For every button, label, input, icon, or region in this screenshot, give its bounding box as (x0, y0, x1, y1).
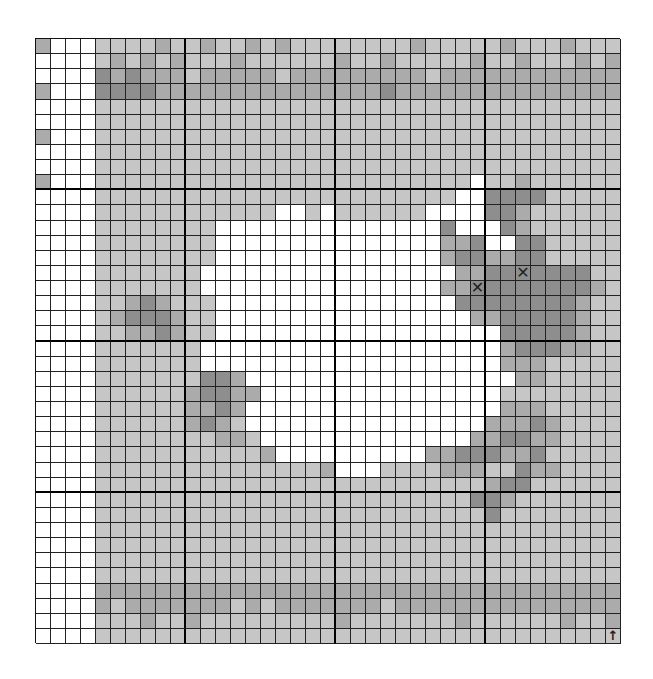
grid-cell-light[interactable] (141, 387, 156, 402)
grid-cell-empty[interactable] (36, 599, 51, 614)
grid-cell-empty[interactable] (81, 478, 96, 493)
grid-cell-empty[interactable] (81, 251, 96, 266)
grid-cell-light[interactable] (306, 54, 321, 69)
grid-cell-medium[interactable] (501, 39, 516, 54)
grid-cell-medium[interactable] (366, 599, 381, 614)
grid-cell-empty[interactable] (426, 311, 441, 326)
grid-cell-dark[interactable] (486, 296, 501, 311)
grid-cell-light[interactable] (216, 493, 231, 508)
grid-cell-light[interactable] (156, 357, 171, 372)
grid-cell-empty[interactable] (426, 342, 441, 357)
grid-cell-light[interactable] (591, 478, 606, 493)
grid-cell-light[interactable] (486, 538, 501, 553)
grid-cell-medium[interactable] (471, 432, 486, 447)
grid-cell-light[interactable] (96, 326, 111, 341)
grid-cell-light[interactable] (396, 538, 411, 553)
grid-cell-light[interactable] (576, 115, 591, 130)
grid-cell-light[interactable] (96, 357, 111, 372)
grid-cell-light[interactable] (156, 236, 171, 251)
grid-cell-light[interactable] (591, 221, 606, 236)
grid-cell-medium[interactable] (486, 432, 501, 447)
grid-cell-medium[interactable] (456, 266, 471, 281)
grid-cell-light[interactable] (141, 281, 156, 296)
grid-cell-light[interactable] (186, 538, 201, 553)
grid-cell-empty[interactable] (426, 236, 441, 251)
grid-cell-light[interactable] (366, 190, 381, 205)
grid-cell-light[interactable] (351, 478, 366, 493)
grid-cell-medium[interactable] (216, 417, 231, 432)
grid-cell-light[interactable] (606, 417, 621, 432)
grid-cell-light[interactable] (591, 387, 606, 402)
grid-cell-empty[interactable] (411, 281, 426, 296)
grid-cell-empty[interactable] (36, 372, 51, 387)
grid-cell-light[interactable] (291, 54, 306, 69)
grid-cell-light[interactable] (171, 538, 186, 553)
grid-cell-light[interactable] (111, 432, 126, 447)
grid-cell-light[interactable] (246, 190, 261, 205)
grid-cell-empty[interactable] (81, 417, 96, 432)
grid-cell-empty[interactable] (51, 478, 66, 493)
grid-cell-light[interactable] (576, 251, 591, 266)
grid-cell-empty[interactable] (276, 387, 291, 402)
grid-cell-light[interactable] (411, 629, 426, 644)
grid-cell-light[interactable] (606, 387, 621, 402)
grid-cell-light[interactable] (231, 417, 246, 432)
grid-cell-empty[interactable] (351, 357, 366, 372)
grid-cell-light[interactable] (186, 568, 201, 583)
grid-cell-empty[interactable] (426, 266, 441, 281)
grid-cell-light[interactable] (561, 190, 576, 205)
grid-cell-light[interactable] (201, 553, 216, 568)
grid-cell-medium[interactable] (276, 584, 291, 599)
grid-cell-medium[interactable] (576, 296, 591, 311)
grid-cell-light[interactable] (141, 130, 156, 145)
grid-cell-empty[interactable] (216, 326, 231, 341)
grid-cell-light[interactable] (591, 160, 606, 175)
grid-cell-light[interactable] (396, 478, 411, 493)
grid-cell-empty[interactable] (81, 84, 96, 99)
grid-cell-empty[interactable] (51, 160, 66, 175)
grid-cell-light[interactable] (216, 463, 231, 478)
grid-cell-light[interactable] (231, 160, 246, 175)
grid-cell-light[interactable] (396, 523, 411, 538)
grid-cell-light[interactable] (546, 54, 561, 69)
grid-cell-dark[interactable] (516, 478, 531, 493)
grid-cell-empty[interactable] (66, 553, 81, 568)
grid-cell-light[interactable] (111, 463, 126, 478)
grid-cell-dark[interactable] (141, 311, 156, 326)
grid-cell-medium[interactable] (171, 311, 186, 326)
grid-cell-empty[interactable] (486, 387, 501, 402)
grid-cell-light[interactable] (381, 190, 396, 205)
grid-cell-empty[interactable] (441, 357, 456, 372)
grid-cell-light[interactable] (456, 478, 471, 493)
grid-cell-light[interactable] (606, 266, 621, 281)
grid-cell-empty[interactable] (381, 387, 396, 402)
grid-cell-light[interactable] (366, 538, 381, 553)
grid-cell-empty[interactable] (81, 39, 96, 54)
grid-cell-light[interactable] (426, 69, 441, 84)
grid-cell-light[interactable] (546, 614, 561, 629)
grid-cell-light[interactable] (426, 493, 441, 508)
grid-cell-light[interactable] (321, 629, 336, 644)
grid-cell-medium[interactable] (261, 584, 276, 599)
grid-cell-empty[interactable] (456, 432, 471, 447)
grid-cell-medium[interactable] (246, 39, 261, 54)
grid-cell-light[interactable] (531, 175, 546, 190)
grid-cell-empty[interactable] (456, 190, 471, 205)
grid-cell-light[interactable] (126, 372, 141, 387)
grid-cell-light[interactable] (126, 145, 141, 160)
grid-cell-light[interactable] (426, 508, 441, 523)
grid-cell-medium[interactable] (336, 599, 351, 614)
grid-cell-empty[interactable] (411, 432, 426, 447)
grid-cell-empty[interactable] (276, 432, 291, 447)
grid-cell-light[interactable] (231, 205, 246, 220)
grid-cell-empty[interactable] (216, 311, 231, 326)
grid-cell-light[interactable] (396, 175, 411, 190)
grid-cell-empty[interactable] (381, 251, 396, 266)
grid-cell-medium[interactable] (486, 311, 501, 326)
grid-cell-light[interactable] (276, 493, 291, 508)
grid-cell-light[interactable] (186, 266, 201, 281)
grid-cell-empty[interactable] (276, 221, 291, 236)
grid-cell-light[interactable] (471, 508, 486, 523)
grid-cell-light[interactable] (501, 115, 516, 130)
grid-cell-empty[interactable] (396, 417, 411, 432)
